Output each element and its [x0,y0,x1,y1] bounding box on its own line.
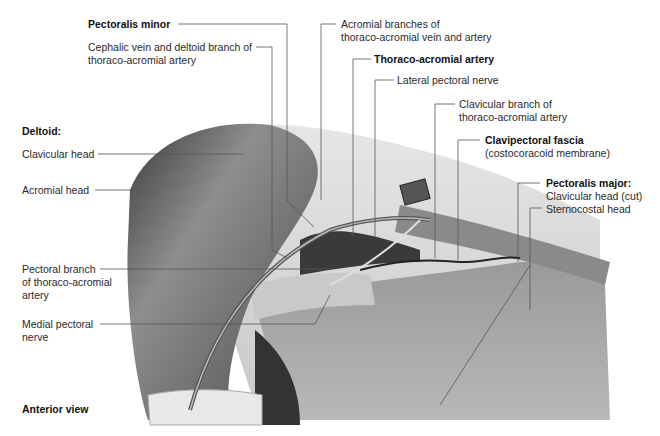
label-acromial-branches-line1: Acromial branches of [341,18,440,31]
label-medial-pectoral-line1: Medial pectoral [22,318,93,331]
label-acromial-branches-line2: thoraco-acromial vein and artery [341,31,492,44]
label-deltoid: Deltoid: [22,125,61,138]
label-cephalic-vein-line2: thoraco-acromial artery [88,54,196,67]
label-thoraco-acromial-artery: Thoraco-acromial artery [374,53,494,66]
label-pectoralis-major: Pectoralis major: [546,177,631,190]
label-deltoid-acromial-head: Acromial head [22,184,89,197]
label-pectoral-branch-line1: Pectoral branch [22,263,96,276]
view-label: Anterior view [22,403,89,416]
label-clavicular-branch-line1: Clavicular branch of [459,98,552,111]
label-clavicular-head-cut: Clavicular head (cut) [546,190,642,203]
label-deltoid-clavicular-head: Clavicular head [22,148,94,161]
label-pectoralis-minor: Pectoralis minor [88,18,170,31]
label-medial-pectoral-line2: nerve [22,331,48,344]
label-clavipectoral-fascia: Clavipectoral fascia [485,134,584,147]
label-lateral-pectoral-nerve: Lateral pectoral nerve [397,74,499,87]
label-costocoracoid-membrane: (costocoracoid membrane) [485,147,610,160]
label-pectoral-branch-line3: artery [22,289,49,302]
label-cephalic-vein-line1: Cephalic vein and deltoid branch of [88,41,252,54]
label-sternocostal-head: Sternocostal head [546,203,631,216]
label-pectoral-branch-line2: of thoraco-acromial [22,276,112,289]
label-clavicular-branch-line2: thoraco-acromial artery [459,111,567,124]
